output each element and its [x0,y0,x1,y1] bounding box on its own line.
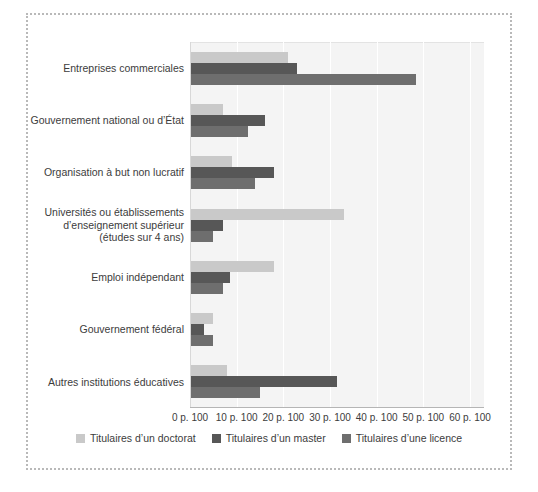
legend-swatch-icon [342,434,351,443]
bar-group [190,156,484,189]
bar-group [190,261,484,294]
category-label: Gouvernement fédéral [26,323,184,336]
chart-legend: Titulaires d’un doctoratTitulaires d’un … [26,432,512,444]
bar-group [190,209,484,242]
legend-swatch-icon [212,434,221,443]
bar [190,220,223,231]
category-label: Autres institutions éducatives [26,376,184,389]
bar [190,261,274,272]
category-label: Emploi indépendant [26,271,184,284]
category-label: Organisation à but non lucratif [26,166,184,179]
bar [190,324,204,335]
x-tick-label: 20 p. 100 [262,412,304,423]
x-tick-label: 10 p. 100 [216,412,258,423]
category-label: Gouvernement national ou d’État [26,114,184,127]
legend-label: Titulaires d’une licence [356,432,462,444]
bar-group [190,313,484,346]
legend-item[interactable]: Titulaires d’un master [212,432,326,444]
y-axis-line [190,42,191,408]
legend-swatch-icon [76,434,85,443]
bar-group [190,365,484,398]
bar [190,167,274,178]
x-axis-line [190,407,484,408]
legend-label: Titulaires d’un doctorat [90,432,196,444]
bar-group [190,52,484,85]
grouped-bar-chart: Entreprises commercialesGouvernement nat… [26,13,512,470]
bar-groups [190,42,484,408]
bar [190,272,230,283]
legend-item[interactable]: Titulaires d’un doctorat [76,432,196,444]
x-axis-tick-labels: 0 p. 10010 p. 10020 p. 10030 p. 10040 p.… [190,412,484,428]
bar [190,231,213,242]
x-tick-label: 50 p. 100 [402,412,444,423]
bar [190,115,265,126]
bar [190,52,288,63]
category-label: Entreprises commerciales [26,62,184,75]
x-tick-label: 30 p. 100 [309,412,351,423]
chart-page: Entreprises commercialesGouvernement nat… [0,0,538,492]
bar [190,156,232,167]
bar [190,63,297,74]
bar [190,178,255,189]
plot-area [190,42,484,408]
x-tick-label: 40 p. 100 [356,412,398,423]
bar [190,365,227,376]
legend-label: Titulaires d’un master [226,432,326,444]
bar [190,283,223,294]
bar [190,387,260,398]
bar [190,126,248,137]
bar [190,313,213,324]
x-tick-label: 0 p. 100 [172,412,208,423]
bar [190,74,416,85]
bar [190,376,337,387]
bar [190,104,223,115]
bar [190,209,344,220]
category-label: Universités ou établissements d’enseigne… [26,206,184,244]
bar [190,335,213,346]
category-axis-labels: Entreprises commercialesGouvernement nat… [26,42,184,408]
x-tick-label: 60 p. 100 [449,412,491,423]
legend-item[interactable]: Titulaires d’une licence [342,432,462,444]
bar-group [190,104,484,137]
